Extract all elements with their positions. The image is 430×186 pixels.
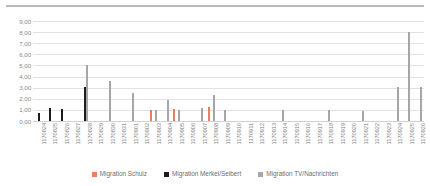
bar-group: [217, 21, 229, 121]
legend-label: Migration Schulz: [100, 170, 147, 178]
x-axis-tick-label: 1170905: [179, 123, 186, 163]
bar-group: [286, 21, 298, 121]
bar: [328, 110, 330, 121]
y-axis: 9,008,007,006,005,004,003,002,001,000,00: [0, 21, 31, 121]
x-axis-tick-label: 1170923: [386, 123, 393, 163]
bar-group: [298, 21, 310, 121]
y-axis-tick-label: 6,00: [3, 51, 31, 58]
x-axis-tick-label: 1170828: [87, 123, 94, 163]
bar: [155, 110, 157, 121]
bar-group: [137, 21, 149, 121]
y-axis-tick-label: 7,00: [3, 40, 31, 47]
bar: [408, 32, 410, 121]
bar-group: [390, 21, 402, 121]
x-axis-tick-label: 1170908: [213, 123, 220, 163]
legend-swatch-icon: [92, 172, 97, 177]
x-axis-tick-label: 1170917: [317, 123, 324, 163]
bar: [208, 107, 210, 121]
x-axis-tick-label: 1170901: [133, 123, 140, 163]
bar-group: [171, 21, 183, 121]
legend-item[interactable]: Migration Merkel/Seibert: [164, 170, 241, 178]
bar-group: [194, 21, 206, 121]
legend-label: Migration Merkel/Seibert: [172, 170, 241, 178]
bar-group: [45, 21, 57, 121]
bar-group: [68, 21, 80, 121]
bar-group: [275, 21, 287, 121]
bar: [109, 81, 111, 121]
x-axis-tick-label: 1170920: [351, 123, 358, 163]
bar: [178, 110, 180, 121]
x-axis-tick-label: 1170830: [110, 123, 117, 163]
x-axis-tick-label: 1170922: [374, 123, 381, 163]
bar-group: [240, 21, 252, 121]
bar: [86, 65, 88, 121]
bar: [397, 87, 399, 121]
chart-container: 9,008,007,006,005,004,003,002,001,000,00…: [0, 0, 430, 186]
bar: [167, 100, 169, 121]
y-axis-tick-label: 2,00: [3, 95, 31, 102]
bar-group: [79, 21, 91, 121]
x-axis-tick-label: 1170915: [294, 123, 301, 163]
bar: [282, 110, 284, 121]
x-axis-tick-label: 1170906: [190, 123, 197, 163]
bar-group: [344, 21, 356, 121]
x-axis-tick-label: 1170824: [41, 123, 48, 163]
y-axis-tick-label: 9,00: [3, 18, 31, 25]
bar-group: [401, 21, 413, 121]
bar-group: [206, 21, 218, 121]
x-axis-tick-label: 1170924: [397, 123, 404, 163]
legend-swatch-icon: [258, 172, 263, 177]
legend-item[interactable]: Migration TV/Nachrichten: [258, 170, 338, 178]
y-axis-tick-label: 5,00: [3, 62, 31, 69]
bar-group: [183, 21, 195, 121]
header-divider: [6, 5, 424, 7]
bar-group: [33, 21, 45, 121]
bar-group: [413, 21, 425, 121]
y-axis-tick-label: 1,00: [3, 106, 31, 113]
y-axis-tick-label: 0,00: [3, 118, 31, 125]
y-axis-tick-label: 8,00: [3, 29, 31, 36]
bar: [150, 110, 152, 121]
y-axis-tick-label: 4,00: [3, 73, 31, 80]
x-axis-tick-label: 1170919: [340, 123, 347, 163]
x-axis-tick-label: 1170909: [225, 123, 232, 163]
x-axis-tick-label: 1170825: [52, 123, 59, 163]
bar-group: [125, 21, 137, 121]
x-axis-tick-label: 1170921: [363, 123, 370, 163]
bar-group: [114, 21, 126, 121]
x-axis: 1170824117082511708261170827117082811708…: [33, 123, 424, 163]
bar-group: [148, 21, 160, 121]
x-axis-tick-label: 1170827: [75, 123, 82, 163]
bar: [362, 111, 364, 121]
bar: [224, 110, 226, 121]
bar: [420, 87, 422, 121]
bar-group: [263, 21, 275, 121]
x-axis-tick-label: 1170913: [271, 123, 278, 163]
bar: [38, 113, 40, 121]
bar-group: [378, 21, 390, 121]
bar-group: [321, 21, 333, 121]
chart-legend: Migration SchulzMigration Merkel/Seibert…: [0, 167, 430, 181]
legend-swatch-icon: [164, 172, 169, 177]
legend-label: Migration TV/Nachrichten: [266, 170, 338, 178]
x-axis-tick-label: 1170911: [248, 123, 255, 163]
bar-group: [102, 21, 114, 121]
x-axis-tick-label: 1170914: [282, 123, 289, 163]
plot-area: [33, 21, 424, 121]
bar: [173, 109, 175, 121]
bar: [132, 93, 134, 121]
bar-group: [229, 21, 241, 121]
x-axis-tick-label: 1170912: [259, 123, 266, 163]
x-axis-tick-label: 1170826: [64, 123, 71, 163]
x-axis-tick-label: 1170918: [328, 123, 335, 163]
bar-group: [367, 21, 379, 121]
bar-group: [252, 21, 264, 121]
x-axis-tick-label: 1170926: [420, 123, 427, 163]
bar-group: [332, 21, 344, 121]
x-axis-tick-label: 1170907: [202, 123, 209, 163]
x-axis-tick-label: 1170925: [409, 123, 416, 163]
x-axis-tick-label: 1170902: [144, 123, 151, 163]
bar: [49, 108, 51, 121]
legend-item[interactable]: Migration Schulz: [92, 170, 147, 178]
x-axis-tick-label: 1170910: [236, 123, 243, 163]
